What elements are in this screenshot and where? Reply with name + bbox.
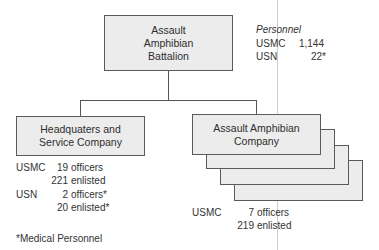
company-stat-type: enlisted [257,220,291,232]
hq-stat-type: officers [71,162,103,174]
company-name-line-1: Assault Amphibian [213,122,299,135]
company-stat-label-usmc: USMC [192,207,221,219]
hq-stat-count: 2 [40,189,68,201]
connector-battalion-down [168,71,169,100]
connector-horizontal [80,100,257,101]
personnel-heading: Personnel [256,24,301,36]
hq-company-box: Headquaters and Service Company [16,116,145,156]
hq-stat-count: 221 [40,175,68,187]
personnel-usmc-value: 1,144 [290,38,324,50]
company-stat-count: 219 [226,220,254,232]
connector-company-drop [256,100,257,114]
company-stat-type: officers [257,207,289,219]
battalion-name-line-1: Assault [151,24,185,37]
battalion-box: Assault Amphibian Battalion [104,15,233,71]
footnote: *Medical Personnel [16,233,102,245]
company-name-line-2: Company [234,135,279,148]
personnel-usn-label: USN [256,51,277,63]
hq-stat-count: 19 [40,162,68,174]
hq-stat-type: enlisted [71,175,105,187]
hq-name-line-1: Headquaters and [40,123,121,136]
hq-stat-type: enlisted* [71,202,109,214]
battalion-name-line-2: Amphibian [144,37,194,50]
hq-stat-type: officers* [71,189,107,201]
personnel-usn-value: 22* [290,51,326,63]
hq-stat-label-usn: USN [16,189,37,201]
hq-name-line-2: Service Company [39,136,122,149]
amphibian-company-box: Assault Amphibian Company [192,114,321,155]
personnel-usmc-label: USMC [256,38,285,50]
hq-stat-count: 20 [40,202,68,214]
connector-hq-drop [80,100,81,116]
company-stat-count: 7 [226,207,254,219]
battalion-name-line-3: Battalion [148,50,189,63]
